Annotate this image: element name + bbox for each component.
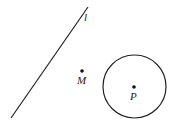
diagram-svg: l M P — [0, 0, 178, 127]
line-l-label: l — [84, 11, 87, 23]
line-l — [11, 7, 88, 118]
point-p-label: P — [129, 90, 137, 102]
point-m — [80, 69, 84, 73]
point-p — [132, 85, 136, 89]
geometry-diagram: l M P — [0, 0, 178, 127]
point-m-label: M — [76, 74, 87, 86]
